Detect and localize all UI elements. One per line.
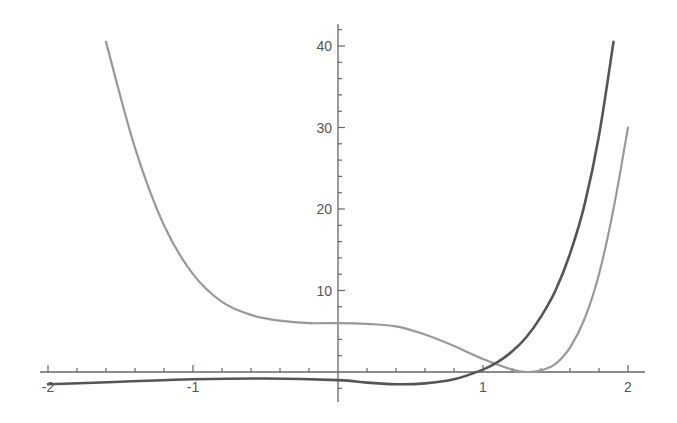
x-tick-label: -2 xyxy=(42,379,55,395)
y-axis: 10203040 xyxy=(316,24,345,402)
y-tick-label: 30 xyxy=(316,120,332,136)
y-tick-label: 10 xyxy=(316,283,332,299)
x-tick-label: 1 xyxy=(479,379,487,395)
series-line-light xyxy=(106,42,628,372)
y-axis-minor-ticks xyxy=(338,30,345,389)
x-tick-label: -1 xyxy=(187,379,200,395)
x-tick-label: 2 xyxy=(624,379,632,395)
y-axis-major-ticks: 10203040 xyxy=(316,38,332,299)
y-tick-label: 40 xyxy=(316,38,332,54)
chart-plot: -2-112 10203040 xyxy=(0,0,677,423)
y-tick-label: 20 xyxy=(316,201,332,217)
